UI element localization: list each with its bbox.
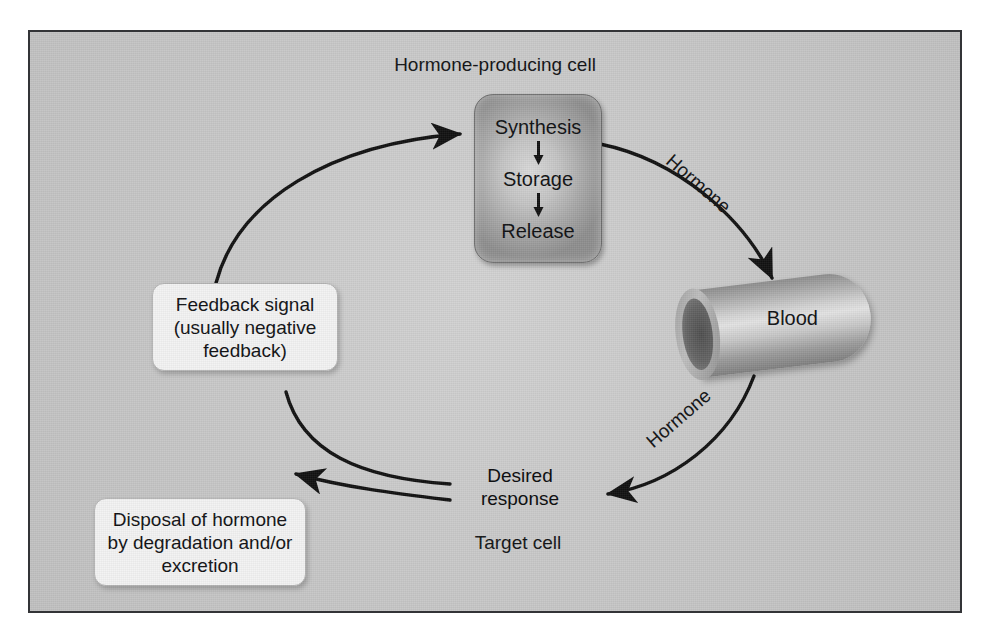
down-arrow-icon	[532, 140, 545, 166]
hormone-producing-cell-caption: Hormone-producing cell	[30, 54, 960, 76]
cell-step-release: Release	[501, 220, 574, 242]
figure-root: Hormone-producing cell Target cell Synth…	[0, 0, 988, 642]
diagram-panel: Hormone-producing cell Target cell Synth…	[28, 30, 962, 613]
arrow-response-to-disposal	[296, 474, 450, 500]
arrow-feedback-to-cell	[216, 134, 460, 283]
cell-step-synthesis: Synthesis	[495, 116, 582, 138]
diagram-layer: Hormone-producing cell Target cell Synth…	[30, 32, 960, 611]
arrow-response-to-feedback	[286, 392, 450, 484]
hormone-producing-cell-box[interactable]: Synthesis Storage Release	[474, 94, 602, 263]
desired-response-box[interactable]: Desired response	[450, 448, 590, 526]
disposal-box[interactable]: Disposal of hormone by degradation and/o…	[94, 498, 306, 586]
feedback-signal-box[interactable]: Feedback signal (usually negative feedba…	[152, 283, 338, 371]
desired-response-label: Desired response	[450, 464, 590, 510]
down-arrow-icon	[532, 192, 545, 218]
target-cell-caption: Target cell	[428, 532, 608, 554]
blood-label: Blood	[742, 307, 842, 330]
cell-step-storage: Storage	[503, 168, 573, 190]
